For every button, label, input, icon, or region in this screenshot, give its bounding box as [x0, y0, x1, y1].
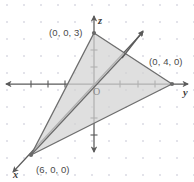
vertex-y-intercept [170, 82, 174, 86]
point-label-y-intercept: (0, 4, 0) [149, 56, 183, 67]
x-axis-label: x [12, 169, 18, 180]
y-axis-label: y [181, 87, 188, 98]
point-label-x-intercept: (6, 0, 0) [36, 164, 70, 175]
figure-container: O z y x (0, 0, 3) (0, 4, 0) (6, 0, 0) [0, 0, 194, 182]
origin-label: O [93, 86, 100, 97]
vertex-x-intercept [29, 153, 33, 157]
point-label-z-intercept: (0, 0, 3) [49, 27, 83, 38]
vertex-z-intercept [92, 31, 96, 35]
plane-intercepts-figure: O z y x (0, 0, 3) (0, 4, 0) (6, 0, 0) [0, 0, 194, 182]
